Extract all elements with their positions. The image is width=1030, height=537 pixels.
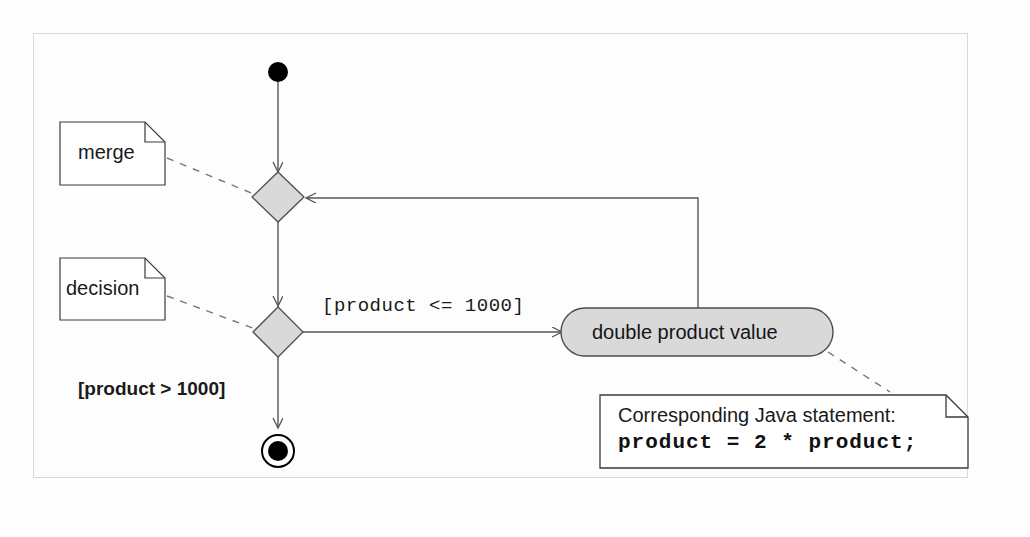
code-note-statement: product = 2 * product; <box>618 431 917 454</box>
merge-note-label: merge <box>78 141 135 164</box>
action-node-label: double product value <box>592 321 778 344</box>
guard-true-label: [product <= 1000] <box>322 295 524 317</box>
decision-note-label: decision <box>66 277 139 300</box>
code-note-caption: Corresponding Java statement: <box>618 404 896 427</box>
guard-false-label: [product > 1000] <box>78 378 225 400</box>
activity-diagram-canvas: merge decision double product value [pro… <box>0 0 1030 537</box>
